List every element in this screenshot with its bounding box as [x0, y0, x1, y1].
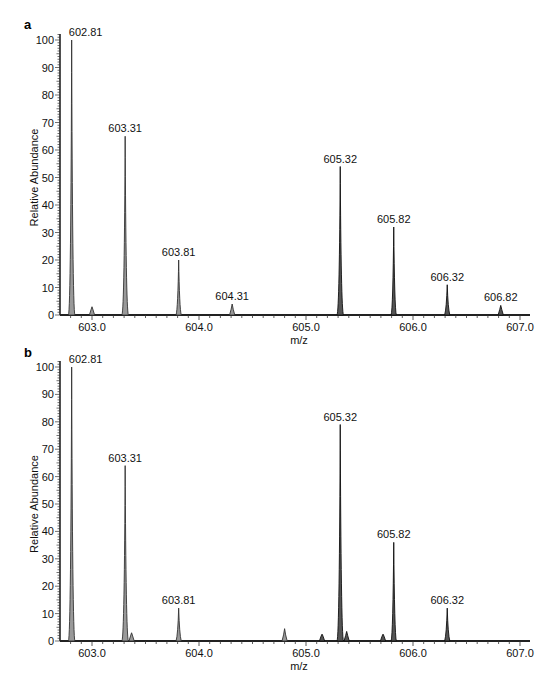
x-tick-label: 604.0 — [185, 647, 213, 659]
y-tick-label: 80 — [42, 89, 54, 101]
peak-label: 605.32 — [323, 411, 357, 423]
spectrum-peak — [176, 608, 181, 641]
x-tick-label: 605.0 — [292, 321, 320, 333]
panel-label: b — [24, 345, 32, 360]
y-tick-label: 40 — [42, 199, 54, 211]
peak-label: 603.81 — [162, 594, 196, 606]
spectrum-peak — [282, 629, 287, 641]
spectrum-peak — [129, 633, 134, 641]
y-tick-label: 0 — [48, 635, 54, 647]
x-axis-title: m/z — [290, 334, 308, 346]
spectrum-peak — [89, 307, 94, 315]
x-tick-label: 604.0 — [185, 321, 213, 333]
spectrum-peak — [391, 227, 396, 315]
spectrum-peak — [68, 40, 74, 315]
x-tick-label: 607.0 — [506, 647, 534, 659]
y-tick-label: 50 — [42, 172, 54, 184]
y-tick-label: 50 — [42, 498, 54, 510]
spectrum-peak — [344, 631, 349, 641]
mass-spectra-figure: a0102030405060708090100Relative Abundanc… — [0, 0, 558, 676]
y-tick-label: 20 — [42, 580, 54, 592]
peak-label: 606.32 — [430, 271, 464, 283]
spectrum-peak — [122, 136, 128, 315]
x-tick-label: 606.0 — [399, 647, 427, 659]
x-tick-label: 603.0 — [78, 321, 106, 333]
y-tick-label: 60 — [42, 144, 54, 156]
spectrum-peak — [445, 608, 450, 641]
y-tick-label: 40 — [42, 525, 54, 537]
spectrum-peak — [391, 542, 396, 641]
y-tick-label: 80 — [42, 416, 54, 428]
peak-label: 603.31 — [108, 452, 142, 464]
peak-label: 606.82 — [484, 291, 518, 303]
x-tick-label: 606.0 — [399, 321, 427, 333]
y-tick-label: 30 — [42, 227, 54, 239]
peak-label: 602.81 — [69, 26, 103, 38]
spectrum-peak — [380, 634, 385, 641]
x-tick-label: 603.0 — [78, 647, 106, 659]
y-tick-label: 0 — [48, 309, 54, 321]
x-axis-title: m/z — [290, 660, 308, 672]
y-tick-label: 10 — [42, 282, 54, 294]
y-axis-title: Relative Abundance — [28, 129, 40, 227]
y-tick-label: 100 — [36, 361, 54, 373]
y-tick-label: 10 — [42, 608, 54, 620]
spectrum-peak — [337, 167, 343, 316]
spectrum-peak — [68, 367, 74, 641]
panel-b-spectrum: b0102030405060708090100Relative Abundanc… — [24, 345, 534, 672]
peak-label: 604.31 — [215, 290, 249, 302]
peak-label: 605.82 — [377, 528, 411, 540]
y-axis-title: Relative Abundance — [28, 455, 40, 553]
y-tick-label: 70 — [42, 117, 54, 129]
peak-label: 603.31 — [108, 122, 142, 134]
x-tick-label: 607.0 — [506, 321, 534, 333]
y-tick-label: 90 — [42, 388, 54, 400]
spectrum-peak — [445, 285, 450, 315]
spectrum-peak — [319, 634, 324, 641]
x-tick-label: 605.0 — [292, 647, 320, 659]
peak-label: 602.81 — [69, 353, 103, 365]
y-tick-label: 30 — [42, 553, 54, 565]
y-tick-label: 100 — [36, 34, 54, 46]
peak-label: 603.81 — [162, 246, 196, 258]
spectrum-peak — [176, 260, 181, 315]
panel-label: a — [24, 17, 32, 32]
y-tick-label: 90 — [42, 62, 54, 74]
y-tick-label: 20 — [42, 254, 54, 266]
spectrum-peak — [337, 425, 343, 641]
peak-label: 605.82 — [377, 213, 411, 225]
spectrum-peak — [230, 304, 235, 315]
panel-a-spectrum: a0102030405060708090100Relative Abundanc… — [24, 17, 534, 346]
peak-label: 606.32 — [430, 594, 464, 606]
y-tick-label: 70 — [42, 443, 54, 455]
spectrum-peak — [122, 466, 128, 641]
y-tick-label: 60 — [42, 471, 54, 483]
spectrum-peak — [498, 305, 503, 315]
peak-label: 605.32 — [323, 153, 357, 165]
